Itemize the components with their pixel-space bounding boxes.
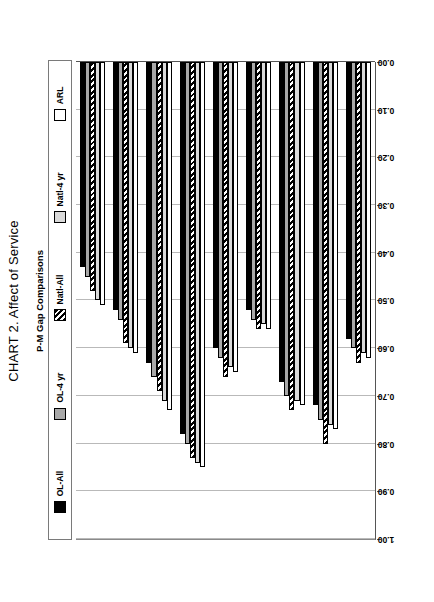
legend-label: Natl-All — [55, 275, 65, 305]
value-tick-label: 0.20 — [378, 153, 395, 163]
value-axis-ticks: 0.000.100.200.300.400.500.600.700.800.90… — [377, 62, 407, 540]
value-tick-label: 1.00 — [378, 535, 395, 545]
legend-swatch-white — [54, 109, 66, 121]
legend-item-arl: ARL — [54, 87, 66, 121]
chart-subtitle: P-M Gap Comparisons — [34, 0, 45, 602]
bar-q1-arl — [100, 62, 105, 305]
bar-q14-arl — [200, 62, 205, 467]
rotated-figure: CHART 2. Affect of Service P-M Gap Compa… — [0, 0, 434, 602]
bar-q20-arl — [333, 62, 338, 429]
legend-label: OL-All — [55, 471, 65, 497]
chart-title: CHART 2. Affect of Service — [6, 0, 21, 602]
chart-screenshot: CHART 2. Affect of Service P-M Gap Compa… — [0, 0, 434, 602]
value-tick-label: 0.00 — [378, 58, 395, 68]
legend-item-ol-all: OL-All — [54, 471, 66, 514]
plot-area — [76, 62, 376, 540]
value-tick-label: 0.10 — [378, 106, 395, 116]
gridline — [76, 490, 375, 491]
value-tick-label: 0.30 — [378, 201, 395, 211]
legend-item-ol-4-yr: OL-4 yr — [54, 373, 66, 420]
figure: CHART 2. Affect of Service P-M Gap Compa… — [0, 0, 434, 602]
bar-q18-arl — [300, 62, 305, 405]
legend-item-natl-all: Natl-All — [54, 275, 66, 322]
value-tick-label: 0.80 — [378, 440, 395, 450]
bar-q11-arl — [167, 62, 172, 410]
legend-label: ARL — [55, 87, 65, 104]
chart-legend: OL-AllOL-4 yrNatl-AllNatl-4 yrARL — [48, 60, 72, 540]
gridline — [76, 443, 375, 444]
gridline — [76, 538, 375, 539]
value-tick-label: 0.70 — [378, 392, 395, 402]
legend-item-natl-4-yr: Natl-4 yr — [54, 172, 66, 223]
legend-label: Natl-4 yr — [55, 172, 65, 206]
bar-q17-arl — [266, 62, 271, 329]
legend-swatch-light-gray — [54, 211, 66, 223]
bar-q24-arl — [366, 62, 371, 358]
legend-label: OL-4 yr — [55, 373, 65, 403]
bar-q15-arl — [233, 62, 238, 372]
legend-swatch-black — [54, 501, 66, 513]
legend-swatch-hatched — [54, 310, 66, 322]
value-tick-label: 0.50 — [378, 297, 395, 307]
legend-swatch-gray — [54, 408, 66, 420]
value-tick-label: 0.90 — [378, 487, 395, 497]
bar-q4-arl — [133, 62, 138, 353]
value-tick-label: 0.40 — [378, 249, 395, 259]
value-tick-label: 0.60 — [378, 344, 395, 354]
